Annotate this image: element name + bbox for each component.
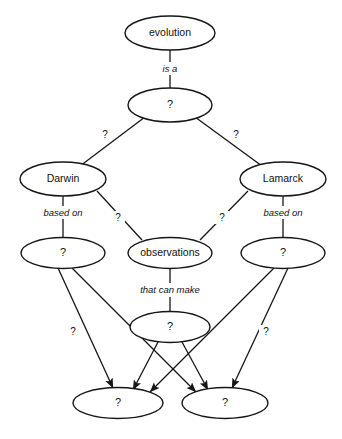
node-bottom-right-label: ? <box>222 396 228 408</box>
node-lamarck-label: Lamarck <box>263 172 304 184</box>
edge-label-right-branch-question: ? <box>229 128 243 141</box>
edge-label-darwin-based-on-text: based on <box>43 207 82 218</box>
edge-label-left-down-text: ? <box>70 326 76 337</box>
node-evolution-label: evolution <box>149 26 191 38</box>
edge-label-lamarck-based-on-text: based on <box>263 207 302 218</box>
edge-label-right-branch-text: ? <box>233 129 239 140</box>
node-darwin-basis-question[interactable]: ? <box>21 238 105 269</box>
concept-map-diagram: evolution ? Darwin Lamarck ? observation… <box>0 0 342 439</box>
edge-label-lamarck-based-on: based on <box>256 206 310 219</box>
node-level2-label: ? <box>167 98 173 110</box>
edge-label-is-a-text: is a <box>163 63 178 74</box>
node-observations-label: observations <box>140 246 200 258</box>
edge-label-left-branch-text: ? <box>102 129 108 140</box>
edge-level2-to-lamarck <box>195 117 262 166</box>
node-bottom-right-question[interactable]: ? <box>182 388 268 419</box>
edge-label-right-down-question: ? <box>259 325 273 338</box>
node-darwin-basis-label: ? <box>60 246 66 258</box>
edge-label-that-can-make: that can make <box>133 283 207 297</box>
node-middle-label: ? <box>167 320 173 332</box>
edge-label-lamarck-observations-text: ? <box>219 212 225 223</box>
node-lamarck-basis-question[interactable]: ? <box>241 238 325 269</box>
node-evolution[interactable]: evolution <box>125 16 215 50</box>
edge-level2-to-darwin <box>80 117 145 166</box>
edge-label-left-down-question: ? <box>66 325 80 338</box>
edge-label-darwin-based-on: based on <box>36 206 90 219</box>
edge-label-lamarck-observations-question: ? <box>215 211 229 224</box>
edge-label-that-can-make-text: that can make <box>140 284 200 295</box>
node-lamarck[interactable]: Lamarck <box>240 162 326 196</box>
edge-label-darwin-observations-question: ? <box>111 211 125 224</box>
edge-label-is-a: is a <box>152 62 188 75</box>
concept-map-canvas: evolution ? Darwin Lamarck ? observation… <box>0 0 342 439</box>
node-level2-question[interactable]: ? <box>128 88 212 122</box>
edge-middle-to-bottom-left <box>133 342 158 390</box>
node-lamarck-basis-label: ? <box>280 246 286 258</box>
node-bottom-left-question[interactable]: ? <box>73 388 163 419</box>
node-bottom-left-label: ? <box>115 396 121 408</box>
edge-label-darwin-observations-text: ? <box>115 212 121 223</box>
edge-label-right-down-text: ? <box>263 326 269 337</box>
node-darwin[interactable]: Darwin <box>20 162 106 196</box>
node-middle-question[interactable]: ? <box>130 312 210 343</box>
node-darwin-label: Darwin <box>47 172 80 184</box>
node-observations[interactable]: observations <box>128 238 212 269</box>
edge-label-left-branch-question: ? <box>98 128 112 141</box>
